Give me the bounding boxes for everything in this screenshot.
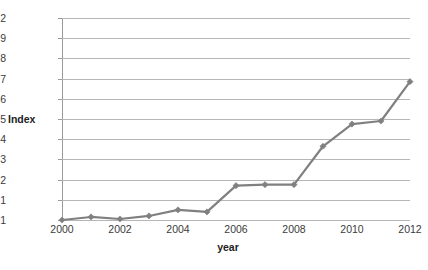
- data-point-marker: [175, 207, 181, 213]
- x-axis-tick-label: 2002: [97, 224, 143, 235]
- y-axis-tick-label: 1.2: [0, 174, 6, 185]
- y-axis-tick-label: 1.5: [0, 114, 6, 125]
- x-axis-title: year: [0, 242, 428, 253]
- data-point-marker: [262, 182, 268, 188]
- y-axis-tick-label: 1.4: [0, 134, 6, 145]
- x-axis-title-text: year: [217, 241, 239, 253]
- y-axis-tick-label: 1.9: [0, 33, 6, 44]
- x-axis-tick-label: 2006: [213, 224, 259, 235]
- y-axis-tick-label: 1.6: [0, 94, 6, 105]
- y-axis-tick-label: 1.7: [0, 73, 6, 84]
- y-axis-tick-label: 2: [0, 13, 6, 24]
- plot-area: [62, 18, 410, 220]
- line-chart: 11.11.21.31.41.51.61.71.81.92 Index 2000…: [0, 0, 428, 270]
- data-point-marker: [146, 213, 152, 219]
- series-index: [62, 18, 410, 220]
- series-line-index: [62, 82, 410, 220]
- x-axis-tick-label: 2000: [39, 224, 85, 235]
- x-axis-tick-label: 2008: [271, 224, 317, 235]
- data-point-marker: [117, 216, 123, 222]
- y-axis-tick-label: 1: [0, 215, 6, 226]
- gridline: [62, 220, 410, 221]
- y-axis-tick-label: 1.1: [0, 195, 6, 206]
- y-axis-title: Index: [8, 114, 52, 125]
- y-axis-tick-label: 1.3: [0, 154, 6, 165]
- x-axis-tick-label: 2010: [329, 224, 375, 235]
- x-axis-tick-label: 2004: [155, 224, 201, 235]
- data-point-marker: [88, 214, 94, 220]
- x-axis-tick-label: 2012: [387, 224, 428, 235]
- y-axis-tick-label: 1.8: [0, 53, 6, 64]
